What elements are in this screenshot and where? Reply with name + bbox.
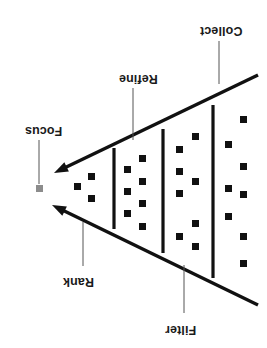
- data-item-squares-group: [74, 116, 247, 267]
- collect-stage-square-2: [225, 185, 232, 192]
- focus-output-square: [36, 185, 43, 192]
- rank-stage-square-4: [139, 155, 146, 162]
- rank-stage-square-5: [139, 178, 146, 185]
- collect-stage-square-1: [225, 141, 232, 148]
- collect-stage-square-6: [240, 191, 247, 198]
- label-collect: Collect: [200, 24, 242, 37]
- refine-stage-square-7: [192, 220, 199, 227]
- upper-edge-arrowhead: [54, 162, 69, 173]
- label-rank: Rank: [63, 275, 94, 288]
- refine-stage-square-3: [176, 190, 183, 197]
- label-focus: Focus: [25, 124, 62, 137]
- refine-stage-square-5: [192, 133, 199, 140]
- rank-stage-square-6: [139, 200, 146, 207]
- lower-edge: [63, 210, 258, 305]
- diagram-canvas: CollectRefineFocusRankFilter: [0, 0, 267, 348]
- refine-stage-square-8: [192, 243, 199, 250]
- refine-stage-square-1: [176, 146, 183, 153]
- rank-stage-squares: [124, 155, 146, 230]
- label-refine: Refine: [119, 72, 158, 85]
- label-filter: Filter: [165, 323, 196, 336]
- collect-stage-square-3: [225, 213, 232, 220]
- rank-stage-square-1: [124, 166, 131, 173]
- focus-stage-square-2: [88, 173, 95, 180]
- collect-stage-squares: [225, 116, 247, 267]
- focus-stage-squares: [74, 173, 95, 202]
- collect-stage-square-7: [240, 233, 247, 240]
- funnel-diagram-svg: [0, 0, 267, 348]
- rank-stage-square-2: [124, 188, 131, 195]
- collect-stage-square-5: [240, 163, 247, 170]
- refine-stage-square-4: [176, 233, 183, 240]
- refine-stage-square-6: [192, 178, 199, 185]
- collect-stage-square-8: [240, 260, 247, 267]
- refine-stage-squares: [176, 133, 199, 250]
- focus-stage-square-1: [74, 183, 81, 190]
- refine-stage-square-2: [176, 168, 183, 175]
- rank-stage-square-7: [139, 223, 146, 230]
- rank-stage-square-3: [124, 210, 131, 217]
- focus-output-square-group: [36, 185, 43, 192]
- lower-edge-arrowhead: [52, 205, 67, 216]
- collect-stage-square-4: [240, 116, 247, 123]
- focus-stage-square-3: [88, 195, 95, 202]
